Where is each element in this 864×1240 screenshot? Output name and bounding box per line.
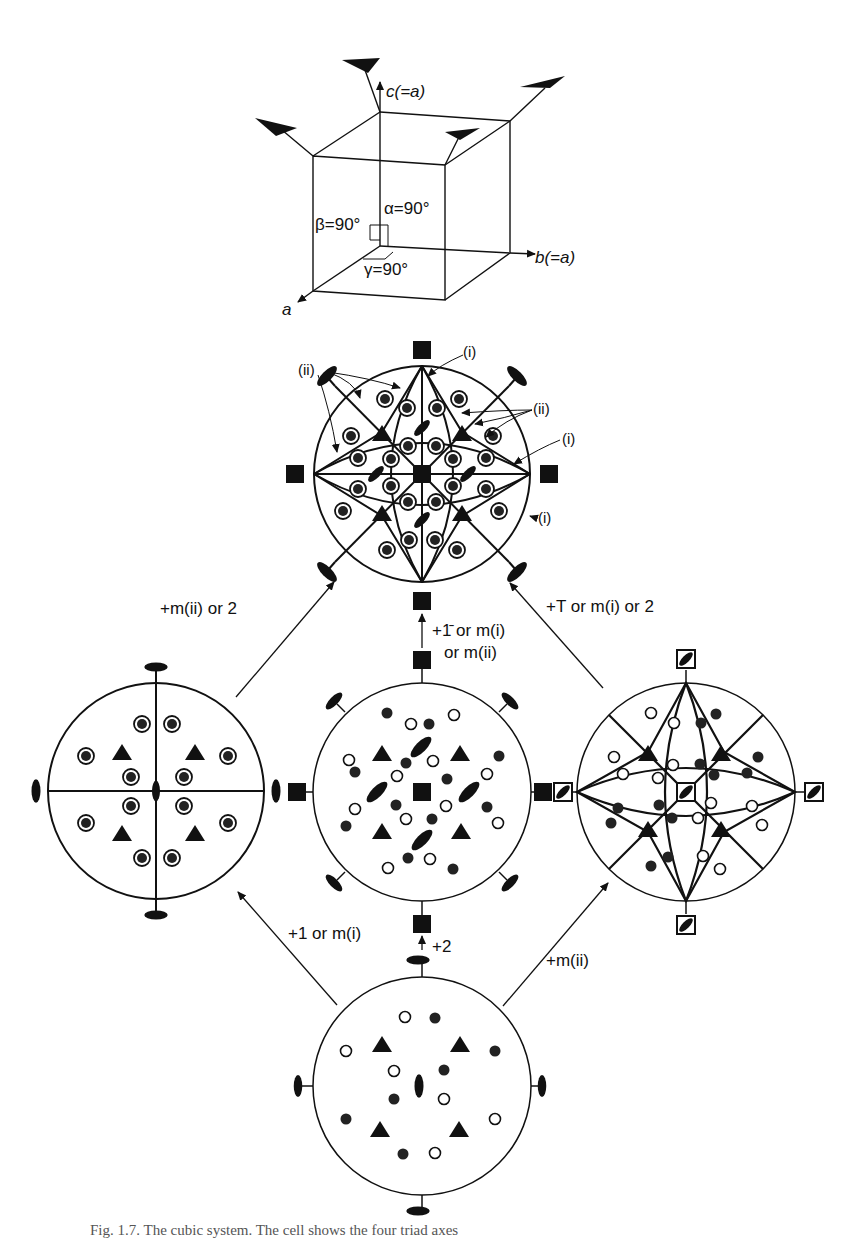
- arrow-label-middle-to-top-1: +1̄ or m(i): [432, 621, 505, 640]
- label-i-top: (i): [463, 343, 476, 360]
- stereogram-m3m: (ii) (i) (ii) (i) (i): [286, 341, 575, 610]
- axis-c-label: c(=a): [386, 82, 425, 101]
- figure-caption: Fig. 1.7. The cubic system. The cell sho…: [90, 1222, 458, 1239]
- stereogram-right: [554, 650, 823, 934]
- gamma-label: γ=90°: [364, 260, 408, 279]
- arrow-label-left-to-top: +m(ii) or 2: [160, 599, 237, 618]
- unit-cell-cube: [282, 70, 545, 302]
- axis-a-label: a: [282, 300, 291, 319]
- stereogram-bottom: [294, 956, 547, 1216]
- arrow-label-bottom-to-right: +m(ii): [546, 951, 589, 970]
- label-i-right: (i): [562, 430, 575, 447]
- beta-label: β=90°: [315, 215, 360, 234]
- stereogram-left: [32, 663, 281, 920]
- alpha-label: α=90°: [384, 199, 429, 218]
- arrow-label-middle-to-top-2: or m(ii): [444, 643, 497, 662]
- arrow-label-bottom-to-left: +1 or m(i): [288, 924, 361, 943]
- stereogram-middle: [288, 651, 552, 933]
- axis-b-label: b(=a): [535, 248, 575, 267]
- cubic-system-diagram: c(=a) b(=a) a α=90° β=90° γ=90°: [0, 0, 864, 1240]
- label-ii-left: (ii): [298, 361, 315, 378]
- arrow-label-bottom-to-middle: +2: [432, 937, 451, 956]
- label-i-lower-right: (i): [538, 509, 551, 526]
- arrow-label-right-to-top: +T or m(i) or 2: [546, 597, 654, 616]
- label-ii-right: (ii): [533, 400, 550, 417]
